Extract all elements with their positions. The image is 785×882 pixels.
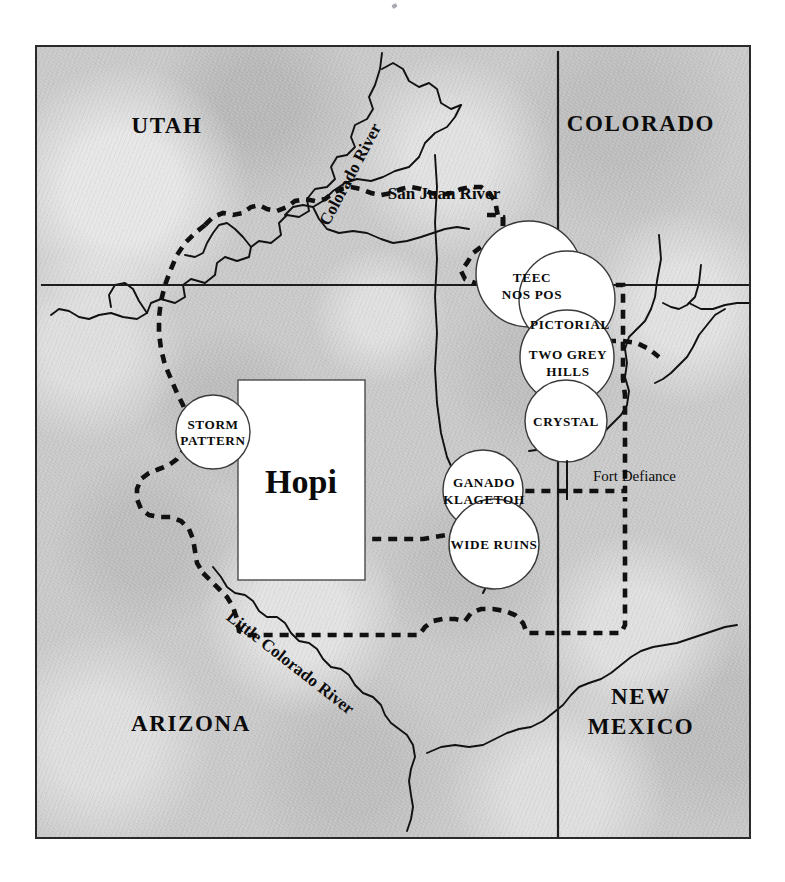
river-ne-east-fork-2 bbox=[655, 309, 725, 383]
river-label-colorado: Colorado River bbox=[315, 120, 385, 229]
region-label-teec-nos-pos-line1: TEEC bbox=[513, 270, 551, 285]
region-label-ganado-klagetoh-line1: GANADO bbox=[453, 475, 515, 490]
scan-speck bbox=[391, 3, 397, 9]
state-label-utah: UTAH bbox=[131, 113, 202, 138]
river-little-colorado-path bbox=[213, 567, 415, 831]
region-label-storm-pattern-line1: STORM bbox=[187, 417, 238, 432]
map-frame: UTAH COLORADO ARIZONA NEW MEXICO Colorad… bbox=[35, 45, 751, 839]
region-label-two-grey-hills-line2: HILLS bbox=[546, 364, 589, 379]
region-label-pictorial: PICTORIAL bbox=[530, 317, 610, 332]
hopi-label: Hopi bbox=[265, 463, 337, 500]
river-label-san-juan: San Juan River bbox=[388, 184, 501, 203]
map-graphics: UTAH COLORADO ARIZONA NEW MEXICO Colorad… bbox=[37, 47, 751, 839]
fort-defiance-label: Fort Defiance bbox=[593, 468, 676, 484]
river-ne-far-east bbox=[689, 303, 749, 309]
river-ne-east-fork bbox=[663, 265, 701, 309]
river-colorado-tributary-lower bbox=[185, 223, 251, 257]
region-circle-storm-pattern[interactable] bbox=[176, 395, 250, 469]
state-label-colorado: COLORADO bbox=[567, 111, 715, 136]
region-label-wide-ruins: WIDE RUINS bbox=[451, 537, 538, 552]
state-label-new-mexico-line1: NEW bbox=[611, 684, 671, 709]
region-label-ganado-klagetoh-line2: KLAGETOH bbox=[443, 492, 525, 507]
river-ne-colorado-branch bbox=[651, 235, 661, 309]
region-label-storm-pattern-line2: PATTERN bbox=[180, 433, 245, 448]
state-label-arizona: ARIZONA bbox=[131, 711, 251, 736]
river-colorado-branch-west bbox=[109, 283, 147, 313]
region-label-crystal: CRYSTAL bbox=[533, 414, 599, 429]
region-label-two-grey-hills-line1: TWO GREY bbox=[529, 347, 607, 362]
river-chinle-wash bbox=[435, 155, 471, 495]
river-label-little-colorado: Little Colorado River bbox=[223, 607, 359, 719]
page-canvas: UTAH COLORADO ARIZONA NEW MEXICO Colorad… bbox=[0, 0, 785, 882]
state-label-new-mexico-line2: MEXICO bbox=[588, 714, 695, 739]
region-label-teec-nos-pos-line2: NOS POS bbox=[502, 287, 562, 302]
river-colorado-tributary-ne bbox=[382, 63, 461, 109]
